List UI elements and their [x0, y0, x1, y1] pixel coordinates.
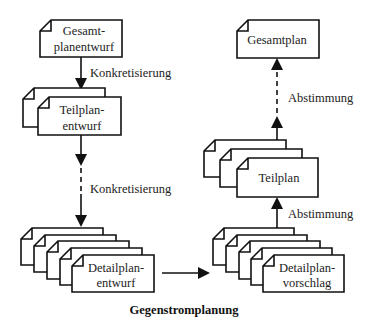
arrowhead-down-icon	[75, 215, 87, 227]
doc-stack-detailplanentwurf: Detailplan- entwurf	[21, 228, 154, 292]
arrow-label-konkretisierung-2: Konkretisierung	[90, 182, 172, 196]
doc-label: Teilplan	[259, 171, 301, 185]
doc-label: Gesamtplan	[247, 33, 307, 47]
doc-label-line1: Teilplan-	[60, 103, 105, 117]
arrow-abstimmung-2	[271, 197, 283, 228]
doc-stack-detailplanvorschlag: Detailplan- vorschlag	[213, 228, 344, 292]
doc-label-line1: Detailplan-	[279, 261, 335, 275]
doc-label-line1: Gesamt-	[63, 24, 105, 38]
doc-label-line2: vorschlag	[283, 276, 332, 290]
arrow-label-abstimmung-1: Abstimmung	[288, 91, 354, 105]
arrow-label-abstimmung-2: Abstimmung	[288, 207, 354, 221]
doc-stack-teilplanentwurf: Teilplan- entwurf	[23, 88, 121, 135]
arrowhead-right-icon	[198, 267, 210, 279]
doc-stack-teilplan: Teilplan	[204, 140, 318, 197]
arrow-left-to-right	[162, 267, 210, 279]
arrow-konkretisierung-2	[75, 135, 87, 227]
doc-label-line2: entwurf	[97, 276, 137, 290]
diagram-caption: Gegenstromplanung	[130, 303, 240, 317]
doc-gesamtplan: Gesamtplan	[237, 20, 319, 58]
arrowhead-up-icon	[271, 197, 283, 209]
doc-label-line1: Detailplan-	[88, 261, 144, 275]
doc-label-line2: planentwurf	[54, 40, 115, 54]
arrowhead-up-icon	[271, 116, 283, 128]
arrowhead-up-icon	[271, 58, 283, 70]
arrow-label-konkretisierung-1: Konkretisierung	[90, 66, 172, 80]
doc-gesamtplanentwurf: Gesamt- planentwurf	[40, 20, 122, 57]
arrowhead-down-icon	[75, 154, 87, 166]
arrow-konkretisierung-1	[75, 57, 87, 90]
gegenstrom-diagram: Gesamt- planentwurf Konkretisierung Teil…	[0, 0, 369, 329]
doc-label-line2: entwurf	[63, 119, 103, 133]
